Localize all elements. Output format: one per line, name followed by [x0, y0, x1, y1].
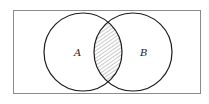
venn-diagram: A B [0, 0, 209, 104]
set-b-label: B [139, 47, 147, 58]
set-a-label: A [73, 47, 81, 58]
